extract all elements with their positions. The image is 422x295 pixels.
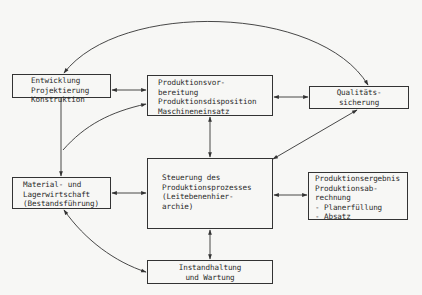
node-text: Material- und xyxy=(23,180,110,190)
node-text: Instandhaltung xyxy=(148,263,272,273)
node-text: Produktionsprozesses xyxy=(162,183,272,193)
node-text: Entwicklung xyxy=(31,76,110,86)
node-text: Produktionsdisposition xyxy=(158,97,272,107)
node-text: Steuerung des xyxy=(162,173,272,183)
node-text: Projektierung xyxy=(31,86,110,96)
node-text: rechnung xyxy=(315,193,407,203)
node-steuerung-produktionsprozess: Steuerung des Produktionsprozesses (Leit… xyxy=(147,158,273,229)
node-qualitaetssicherung: Qualitäts- sicherung xyxy=(309,86,409,109)
node-text: (Bestandsführung) xyxy=(23,199,110,209)
node-text: Produktionsab- xyxy=(315,184,407,194)
node-text: Qualitäts- xyxy=(310,88,408,98)
edge-mat-inst xyxy=(64,210,146,272)
node-text: Lagerwirtschaft xyxy=(23,190,110,200)
node-produktionsvorbereitung: Produktionsvor- bereitung Produktionsdis… xyxy=(147,75,273,116)
node-text: archie) xyxy=(162,202,272,212)
node-text: - Absatz xyxy=(315,212,407,222)
node-text: Maschineneinsatz xyxy=(158,107,272,117)
node-text: und Wartung xyxy=(148,273,272,283)
node-entwicklung: Entwicklung Projektierung Konstruktion xyxy=(12,74,111,98)
edge-steu-qual xyxy=(273,110,357,159)
node-text: Produktionsergebnis xyxy=(315,174,407,184)
node-instandhaltung: Instandhaltung und Wartung xyxy=(147,260,273,284)
node-text: bereitung xyxy=(158,88,272,98)
node-text: sicherung xyxy=(310,98,408,108)
node-text: Produktionsvor- xyxy=(158,78,272,88)
edge-mat-prodv xyxy=(63,104,146,150)
node-text: (Leitebenenhier- xyxy=(162,192,272,202)
node-text: - Planerfüllung xyxy=(315,203,407,213)
node-produktionsergebnis: Produktionsergebnis Produktionsab- rechn… xyxy=(308,172,408,220)
node-material-lagerwirtschaft: Material- und Lagerwirtschaft (Bestandsf… xyxy=(12,177,111,209)
connector-layer xyxy=(0,0,422,295)
node-text: Konstruktion xyxy=(31,95,110,105)
